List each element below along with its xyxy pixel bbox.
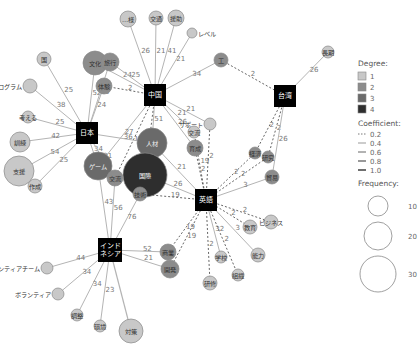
node-circle[interactable] (204, 118, 216, 130)
edge-weight-label: 25 (64, 86, 73, 94)
node-label: 育成 (189, 145, 201, 153)
node-n_kangaeru[interactable]: 考える (19, 111, 37, 123)
node-label: 経済 (249, 150, 261, 158)
node-label: 環境 (94, 323, 106, 331)
legend-frequency-circle (360, 256, 396, 292)
legend-coefficient-label: 0.8 (370, 158, 381, 166)
node-circle[interactable] (187, 28, 197, 38)
node-n_taisaku[interactable]: 対策 (119, 319, 143, 343)
node-n_keizai[interactable]: 経済 (249, 147, 261, 159)
node-n_sakusei[interactable]: 作成 (28, 179, 42, 193)
node-n_gijutsu[interactable]: 技術 (133, 187, 147, 201)
legend-degree-swatch (358, 83, 366, 91)
node-label: …様 (122, 16, 135, 23)
hub-label: 台湾 (278, 91, 292, 100)
legend-coefficient-label: 0.2 (370, 131, 381, 139)
legend-frequency-circle (368, 196, 388, 216)
node-n_ryoko[interactable]: 旅行 (101, 53, 119, 71)
edge-weight-label: 2 (225, 235, 229, 243)
legend-frequency-label: 20 (408, 233, 417, 241)
hub-china[interactable]: 中国 (144, 84, 166, 106)
node-n_sho[interactable]: …様 (120, 11, 136, 27)
edge-weight-label: 2 (209, 240, 213, 248)
node-n_kyouiku2[interactable]: 教育 (243, 220, 257, 234)
node-label: ボランティア (15, 291, 51, 299)
edge-weight-label: 25 (56, 118, 65, 126)
hub-taiwan[interactable]: 台湾 (274, 85, 296, 107)
edge-weight-label: 34 (192, 70, 201, 78)
edge-weight-label: 51 (154, 115, 163, 123)
node-n_kyoiku[interactable]: 育成 (187, 140, 203, 156)
node-n_kotsu[interactable]: 交通 (149, 11, 163, 25)
legend-frequency-circle (364, 222, 392, 250)
edge-weight-label: 21 (186, 105, 195, 113)
legend-coefficient-title: Coefficient: (358, 119, 401, 128)
node-label: 研究 (262, 154, 274, 162)
node-n_ko2[interactable]: 交流 (188, 126, 200, 138)
edge-weight-label: 2 (270, 121, 274, 129)
edge-weight-label: 2 (231, 209, 235, 217)
node-n_bouei[interactable]: 貿易 (265, 170, 279, 184)
node-n_kaigi[interactable]: 研修 (203, 276, 217, 290)
node-n_ko[interactable]: 工 (214, 53, 228, 67)
hub-label: 中国 (148, 90, 162, 99)
legend-degree-label: 1 (370, 73, 374, 81)
node-n_kunren[interactable]: 訓練 (10, 132, 30, 152)
edge-japan-n_kuni (44, 59, 87, 133)
node-circle[interactable] (41, 262, 53, 274)
edge-weight-label: 2 (241, 170, 245, 178)
co-occurrence-network: 2621412134242522121265121927226222625382… (0, 0, 418, 353)
node-label: 交流 (109, 175, 121, 183)
edge-weight-label: 54 (51, 148, 60, 156)
hub-label: 日本 (80, 128, 94, 137)
node-label: 援助 (170, 15, 182, 23)
node-n_chosa[interactable]: 調整 (71, 309, 83, 321)
hub-indonesia[interactable]: インドネシア (98, 238, 122, 262)
edge-weight-label: 25 (131, 71, 140, 79)
legend-frequency-title: Frequency: (358, 179, 399, 188)
legend-degree-label: 2 (370, 84, 374, 92)
node-label: 作成 (29, 183, 41, 191)
legend-degree-items: 1234 (358, 72, 375, 114)
node-n_jinkou[interactable]: 長期 (322, 46, 334, 58)
edge-weight-label: 2 (251, 70, 255, 78)
edge-weight-label: 21 (177, 163, 186, 171)
node-n_kenkyu[interactable]: 研究 (262, 151, 274, 163)
node-n_level[interactable]: レベル (187, 28, 216, 38)
node-n_kankyo[interactable]: 環境 (94, 320, 106, 332)
node-n_kaihatsu[interactable]: 開発 (161, 260, 179, 278)
hub-english[interactable]: 英語 (195, 189, 217, 211)
node-n_enjo[interactable]: 援助 (168, 10, 184, 26)
node-n_kuni[interactable]: 国 (37, 52, 51, 66)
edge-weight-label: 2 (243, 206, 247, 214)
node-n_shougyo[interactable]: 商業 (160, 244, 176, 260)
edge-weight-label: 21 (177, 109, 186, 117)
node-n_volteam[interactable]: ボランティアチーム (0, 262, 53, 274)
node-label: 支援 (13, 168, 25, 176)
edge-china-n_enjo (155, 18, 176, 95)
node-label: 考える (19, 114, 37, 122)
edge-weight-label: 52 (143, 245, 152, 253)
node-label: 人材 (146, 140, 158, 147)
hub-japan[interactable]: 日本 (76, 122, 98, 144)
legend-coefficient-items: 0.20.40.60.81.0 (358, 131, 382, 175)
node-n_soshiki[interactable]: 組織 (232, 269, 244, 281)
node-n_kinou[interactable]: 能力 (251, 248, 265, 262)
edge-weight-label: 2 (209, 152, 213, 160)
node-n_nihongo[interactable]: ビジネス (259, 215, 283, 229)
node-circle[interactable] (23, 79, 37, 93)
edge-weight-label: 38 (57, 101, 66, 109)
node-label: 教育 (244, 224, 256, 232)
node-n_program[interactable]: プログラム (0, 79, 37, 93)
node-n_shakai[interactable]: 交流 (107, 170, 123, 186)
edge-weight-label: 19 (171, 191, 180, 199)
node-circle[interactable] (52, 288, 64, 300)
node-label: 交通 (150, 15, 162, 23)
edge-weight-label: 34 (93, 280, 102, 288)
edge-weight-label: 44 (76, 254, 85, 262)
node-n_volunteer[interactable]: ボランティア (15, 288, 64, 300)
node-n_tairiku[interactable]: 体験 (96, 78, 112, 94)
node-n_gakko[interactable]: 学校 (215, 251, 227, 263)
legend-frequency-label: 10 (408, 203, 417, 211)
edge-weight-label: 41 (168, 47, 177, 55)
